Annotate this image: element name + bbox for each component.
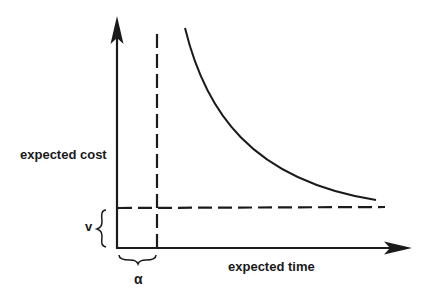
tradeoff-curve bbox=[185, 28, 376, 200]
v-label: v bbox=[85, 220, 92, 233]
alpha-brace-icon bbox=[119, 255, 156, 264]
y-axis bbox=[111, 16, 124, 249]
alpha-label: α bbox=[134, 272, 143, 286]
x-axis bbox=[116, 242, 412, 255]
tradeoff-diagram bbox=[0, 0, 432, 292]
x-axis-label: expected time bbox=[228, 260, 315, 273]
v-brace-icon bbox=[97, 210, 106, 247]
y-axis-label: expected cost bbox=[20, 148, 107, 161]
v-dashed-line bbox=[118, 207, 385, 208]
